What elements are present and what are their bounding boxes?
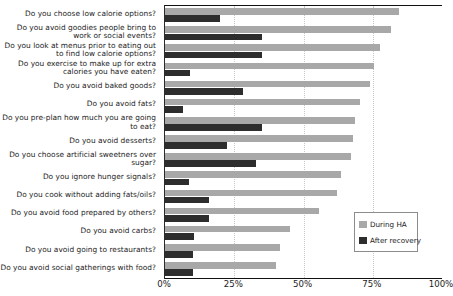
bar-row — [165, 60, 442, 78]
x-axis-tick: 0% — [157, 279, 171, 289]
bar-after-recovery — [165, 142, 227, 149]
bar-after-recovery — [165, 34, 262, 41]
x-axis-tick: 50% — [293, 279, 312, 289]
category-label: Do you cook without adding fats/oils? — [0, 186, 160, 204]
category-label-text: Do you avoid food prepared by others? — [11, 209, 156, 218]
category-label-text: Do you exercise to make up for extra cal… — [0, 60, 156, 77]
category-label-text: Do you look at menus prior to eating out… — [0, 42, 156, 59]
bar-row — [165, 79, 442, 97]
bar-after-recovery — [165, 269, 193, 276]
legend-label: During HA — [370, 220, 407, 229]
bar-row — [165, 133, 442, 151]
legend-entry[interactable]: After recovery — [359, 236, 417, 245]
legend-swatch-icon — [359, 221, 367, 228]
bar-after-recovery — [165, 124, 262, 131]
category-label: Do you avoid social gatherings with food… — [0, 259, 160, 277]
category-label: Do you choose artificial sweetners over … — [0, 150, 160, 168]
bar-after-recovery — [165, 70, 190, 77]
bar-after-recovery — [165, 52, 262, 59]
bar-row — [165, 42, 442, 60]
bar-during-ha — [165, 190, 337, 197]
category-label-text: Do you ignore hunger signals? — [43, 173, 156, 182]
bar-during-ha — [165, 262, 276, 269]
bar-during-ha — [165, 153, 351, 160]
category-label: Do you avoid fats? — [0, 96, 160, 114]
chart-legend: During HAAfter recovery — [354, 212, 418, 252]
bar-after-recovery — [165, 251, 193, 258]
bar-row — [165, 115, 442, 133]
legend-label: After recovery — [370, 236, 421, 245]
category-label-text: Do you avoid social gatherings with food… — [0, 264, 156, 273]
bar-during-ha — [165, 244, 280, 251]
x-axis-tick: 25% — [224, 279, 243, 289]
category-label: Do you ignore hunger signals? — [0, 168, 160, 186]
category-label-text: Do you avoid fats? — [87, 100, 156, 109]
bar-during-ha — [165, 44, 380, 51]
bar-row — [165, 151, 442, 169]
category-label-text: Do you avoid going to restaurants? — [25, 246, 156, 255]
category-label: Do you avoid desserts? — [0, 132, 160, 150]
bar-after-recovery — [165, 15, 220, 22]
category-label: Do you exercise to make up for extra cal… — [0, 59, 160, 77]
category-label-text: Do you avoid desserts? — [69, 137, 156, 146]
category-label: Do you avoid food prepared by others? — [0, 205, 160, 223]
category-label: Do you avoid goodies people bring to wor… — [0, 23, 160, 41]
x-axis-tick-labels: 0%25%50%75%100% — [164, 279, 441, 293]
bar-during-ha — [165, 63, 374, 70]
legend-swatch-icon — [359, 237, 367, 244]
category-label-text: Do you avoid carbs? — [81, 227, 156, 236]
bar-after-recovery — [165, 215, 209, 222]
category-label: Do you avoid going to restaurants? — [0, 241, 160, 259]
legend-entry[interactable]: During HA — [359, 220, 417, 229]
bar-after-recovery — [165, 179, 189, 186]
bar-during-ha — [165, 117, 355, 124]
bar-during-ha — [165, 135, 353, 142]
bar-row — [165, 6, 442, 24]
bar-after-recovery — [165, 197, 209, 204]
bar-after-recovery — [165, 106, 183, 113]
bar-during-ha — [165, 26, 391, 33]
bar-row — [165, 169, 442, 187]
bar-after-recovery — [165, 88, 243, 95]
x-axis-tick: 100% — [429, 279, 453, 289]
x-axis-tick: 75% — [362, 279, 381, 289]
category-label: Do you avoid carbs? — [0, 223, 160, 241]
bar-during-ha — [165, 99, 360, 106]
bar-during-ha — [165, 81, 370, 88]
category-label-text: Do you choose low calorie options? — [25, 10, 156, 19]
category-label-column: Do you choose low calorie options?Do you… — [0, 5, 160, 277]
category-label-text: Do you cook without adding fats/oils? — [16, 191, 156, 200]
bar-during-ha — [165, 171, 341, 178]
bar-row — [165, 187, 442, 205]
category-label: Do you pre-plan how much you are going t… — [0, 114, 160, 132]
bar-row — [165, 24, 442, 42]
category-label-text: Do you choose artificial sweetners over … — [0, 151, 156, 168]
category-label-text: Do you avoid baked goods? — [53, 82, 156, 91]
bar-during-ha — [165, 8, 399, 15]
bar-after-recovery — [165, 160, 256, 167]
category-label-text: Do you pre-plan how much you are going t… — [0, 114, 156, 131]
bar-after-recovery — [165, 233, 194, 240]
bar-during-ha — [165, 208, 319, 215]
category-label-text: Do you avoid goodies people bring to wor… — [0, 24, 156, 41]
bar-during-ha — [165, 226, 290, 233]
bar-row — [165, 260, 442, 278]
bar-row — [165, 97, 442, 115]
category-label: Do you avoid baked goods? — [0, 78, 160, 96]
category-label: Do you look at menus prior to eating out… — [0, 41, 160, 59]
category-label: Do you choose low calorie options? — [0, 5, 160, 23]
